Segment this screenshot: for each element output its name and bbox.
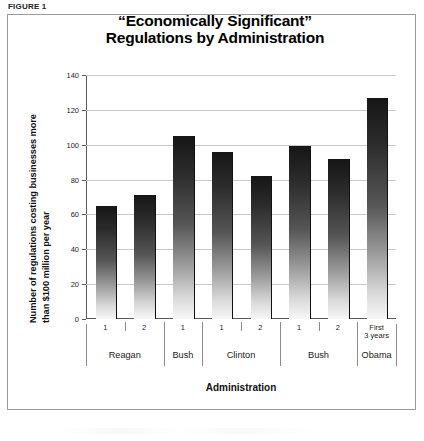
x-axis-term-separator: [241, 322, 242, 331]
x-axis-term-label: 1: [86, 324, 125, 332]
x-axis-term-label: 1: [164, 324, 203, 332]
x-axis-term-label-text: 2: [125, 324, 164, 332]
x-axis-group-label: Obama: [357, 350, 396, 360]
x-axis-group-separator: [86, 324, 87, 366]
x-axis-term-label: First3 years: [357, 324, 396, 340]
bar[interactable]: [328, 159, 350, 319]
chart-title-line-1: “Economically Significant”: [40, 12, 390, 29]
y-axis-title-line-1: Number of regulations costing businesses…: [28, 114, 38, 323]
y-axis-tick: [82, 110, 86, 111]
x-axis-term-label-text: 1: [280, 324, 319, 332]
chart-title: “Economically Significant” Regulations b…: [40, 12, 390, 47]
x-axis-term-label-text: 1: [202, 324, 241, 332]
chart-title-line-2: Regulations by Administration: [40, 29, 390, 46]
x-axis-group-separator: [396, 324, 397, 366]
y-axis-tick: [82, 249, 86, 250]
x-axis-group-label: Bush: [164, 350, 203, 360]
plot-area: 020406080100120140: [86, 75, 396, 319]
x-axis-term-separator: [125, 322, 126, 331]
y-axis-tick: [82, 145, 86, 146]
x-axis-group-label: Reagan: [86, 350, 164, 360]
x-axis-term-label-text: 2: [319, 324, 358, 332]
y-axis-tick-label: 100: [66, 140, 79, 149]
y-axis-tick: [82, 75, 86, 76]
y-axis-tick-label: 60: [71, 210, 79, 219]
x-axis-term-label: 2: [125, 324, 164, 332]
y-axis-tick-label: 40: [71, 245, 79, 254]
bar[interactable]: [212, 152, 234, 319]
gridline: [86, 145, 396, 146]
page-bleed-artifact: [60, 428, 360, 434]
y-axis-tick: [82, 180, 86, 181]
x-axis-term-label: 1: [280, 324, 319, 332]
bar[interactable]: [289, 146, 311, 319]
y-axis-tick-label: 120: [66, 105, 79, 114]
y-axis-title: Number of regulations costing businesses…: [16, 75, 56, 325]
x-axis-term-separator: [319, 322, 320, 331]
gridline: [86, 110, 396, 111]
x-axis-title: Administration: [86, 382, 396, 393]
y-axis-tick: [82, 319, 86, 320]
x-axis-term-labels: 1211212First3 years: [86, 322, 396, 350]
bar[interactable]: [134, 195, 156, 319]
x-axis-term-label: 2: [241, 324, 280, 332]
x-axis-group-label: Clinton: [202, 350, 280, 360]
x-axis-term-label: 2: [319, 324, 358, 332]
x-axis-group-label: Bush: [280, 350, 358, 360]
x-axis-term-label: 1: [202, 324, 241, 332]
bar[interactable]: [96, 206, 118, 319]
y-axis-tick: [82, 284, 86, 285]
y-axis-tick-label: 80: [71, 175, 79, 184]
gridline: [86, 75, 396, 76]
y-axis-tick-label: 20: [71, 280, 79, 289]
x-axis-term-label-text: 2: [241, 324, 280, 332]
x-axis-term-label-text: 1: [86, 324, 125, 332]
bar[interactable]: [251, 176, 273, 319]
x-axis-term-label-text: 1: [164, 324, 203, 332]
y-axis-tick: [82, 214, 86, 215]
x-axis-term-label-text: 3 years: [357, 332, 396, 340]
y-axis-tick-label: 140: [66, 71, 79, 80]
y-axis-title-line-2: than $100 million per year: [41, 211, 51, 323]
bar[interactable]: [173, 136, 195, 319]
x-axis-group-labels: ReaganBushClintonBushObama: [86, 350, 396, 374]
y-axis-tick-label: 0: [75, 315, 79, 324]
bar[interactable]: [367, 98, 389, 319]
figure-label: FIGURE 1: [8, 2, 47, 11]
